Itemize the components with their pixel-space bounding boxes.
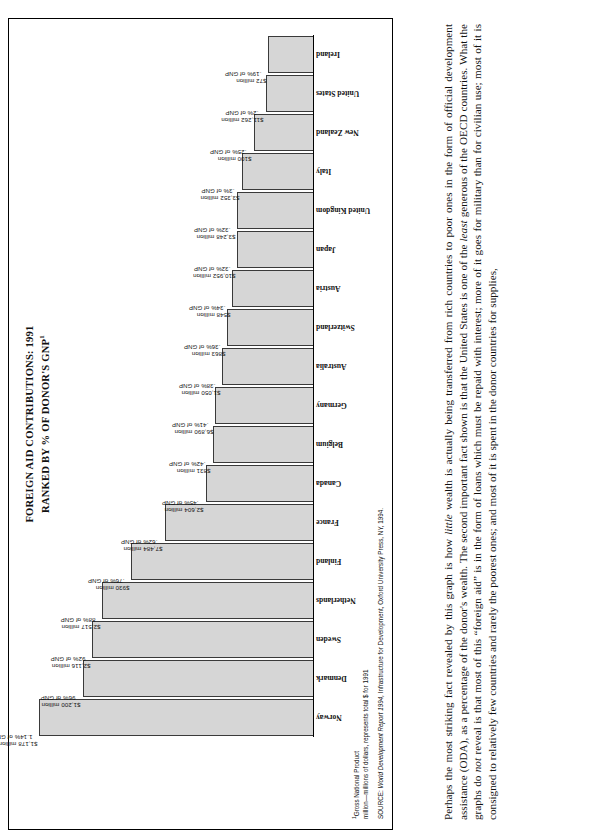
page-canvas: FOREIGN AID CONTRIBUTIONS: 1991 RANKED B…	[0, 0, 590, 838]
bar-chart-plot: $1,178 million1.14% of GNP$1,200 million…	[25, 35, 314, 737]
category-label: New Zealand	[316, 128, 359, 137]
category-label-cell: United States	[314, 74, 384, 113]
bar-amount-label: $3,248 million	[193, 234, 235, 241]
bar-percent-label: .41% of GNP	[172, 422, 214, 429]
bar-percent-label: 1.14% of GNP	[0, 734, 37, 741]
bar: $863 million.36% of GNP	[227, 309, 314, 346]
figure-source-line: SOURCE: World Development Report 1994, I…	[377, 489, 386, 819]
body-emphasis-1: little	[442, 514, 454, 535]
bar: $11,262 million.2% of GNP	[266, 75, 314, 112]
category-label: Australia	[316, 362, 346, 371]
category-label: United Kingdom	[316, 206, 370, 215]
category-label: Japan	[316, 245, 336, 254]
source-rest: Infrastructure for Development, Oxford U…	[377, 508, 384, 695]
bar-group: $10,952 million.32% of GNP	[25, 230, 314, 269]
bar: $2,604 million.45% of GNP	[206, 465, 314, 502]
bar-group: $930 million.76% of GNP	[25, 542, 314, 581]
bar-group: $863 million.36% of GNP	[25, 308, 314, 347]
source-title: World Development Report 1994,	[377, 695, 384, 788]
bar-group: $548 million.34% of GNP	[25, 269, 314, 308]
bar-percent-label: .76% of GNP	[87, 578, 129, 585]
category-label-cell: United Kingdom	[314, 191, 384, 230]
bar-amount-label: $7,484 million	[121, 546, 163, 553]
figure-border-box: FOREIGN AID CONTRIBUTIONS: 1991 RANKED B…	[8, 18, 393, 830]
bar-amount-label: $2,517 million	[60, 624, 100, 631]
category-label: Austria	[316, 284, 340, 293]
bar-value-label: $548 million.34% of GNP	[188, 305, 230, 319]
bar-percent-label: .62% of GNP	[121, 539, 163, 546]
bar-value-label: $11,262 million.2% of GNP	[222, 110, 264, 124]
bar-value-label: $2,604 million.45% of GNP	[162, 500, 204, 514]
bar-percent-label: .36% of GNP	[184, 344, 226, 351]
category-label: Norway	[316, 713, 342, 722]
bar-group: $11,262 million.2% of GNP	[25, 74, 314, 113]
body-text-rotation-wrapper: Perhaps the most striking fact revealed …	[430, 20, 580, 820]
category-label-cell: Italy	[314, 152, 384, 191]
bar: $2,116 million92% of GNP	[92, 621, 314, 658]
bar: $72 million.19% of GNP	[268, 36, 314, 73]
bar: $1,178 million1.14% of GNP	[39, 699, 314, 736]
figure-rotation-wrapper: FOREIGN AID CONTRIBUTIONS: 1991 RANKED B…	[8, 18, 393, 830]
bar-amount-label: $2,604 million	[162, 507, 204, 514]
bar-amount-label: $1,178 million	[0, 741, 37, 748]
bar: $1,050 million.38% of GNP	[222, 348, 314, 385]
bar-amount-label: $1,200 million	[41, 702, 81, 709]
bar: $10,952 million.32% of GNP	[237, 231, 314, 268]
bar-group: $6,890 million.41% of GNP	[25, 386, 314, 425]
bar-group: $3,248 million.32% of GNP	[25, 191, 314, 230]
bar-value-label: $1,178 million1.14% of GNP	[0, 734, 37, 748]
bar-amount-label: $548 million	[188, 312, 230, 319]
bar-group: $3,352 million.3% of GNP	[25, 152, 314, 191]
bar-value-label: $930 million.76% of GNP	[87, 578, 129, 592]
category-label: Canada	[316, 479, 341, 488]
bar-amount-label: $72 million	[225, 78, 267, 85]
bar-amount-label: $10,952 million	[192, 273, 235, 280]
category-label-cell: Switzerland	[314, 308, 384, 347]
footnote-text-1: Gross National Product	[353, 751, 360, 816]
body-part-1: Perhaps the most striking fact revealed …	[442, 535, 454, 820]
bar-group: $72 million.19% of GNP	[25, 35, 314, 74]
category-label-cell: Japan	[314, 230, 384, 269]
category-label-cell: Ireland	[314, 35, 384, 74]
bar-amount-label: $6,890 million	[172, 429, 214, 436]
category-label: Switzerland	[316, 323, 355, 332]
category-label-cell: Australia	[314, 347, 384, 386]
bar-percent-label: .34% of GNP	[188, 305, 230, 312]
bar-percent-label: 92% of GNP	[51, 656, 91, 663]
bar-value-label: $6,890 million.41% of GNP	[172, 422, 214, 436]
body-emphasis-2: least	[457, 220, 469, 241]
bar-percent-label: .32% of GNP	[193, 227, 235, 234]
category-label-cell: Belgium	[314, 425, 384, 464]
footnote-line-1: 1Gross National Product	[350, 489, 362, 819]
bar-value-label: $2,116 million92% of GNP	[51, 656, 91, 670]
bar: $3,352 million.3% of GNP	[242, 153, 314, 190]
bar-value-label: $831 million.42% of GNP	[169, 461, 211, 475]
category-label: Denmark	[316, 674, 347, 683]
bar-percent-label: 88% of GNP	[60, 617, 100, 624]
category-label: Ireland	[316, 50, 340, 59]
category-label: Germany	[316, 401, 347, 410]
footnote-text-2: million—millions of dollars, represents …	[362, 670, 369, 819]
bar-value-label: $3,248 million.32% of GNP	[193, 227, 235, 241]
bar-value-label: $10,952 million.32% of GNP	[192, 266, 235, 280]
bar-amount-label: $863 million	[184, 351, 226, 358]
category-label: Italy	[316, 167, 331, 176]
bar: $1,200 million96% of GNP	[83, 660, 314, 697]
bar: $3,248 million.32% of GNP	[237, 192, 314, 229]
category-label: France	[316, 518, 339, 527]
bar: $548 million.34% of GNP	[232, 270, 314, 307]
category-label: Sweden	[316, 635, 341, 644]
figure-footnotes: 1Gross National Product million—millions…	[350, 489, 386, 819]
bar-percent-label: 96% of GNP	[41, 695, 81, 702]
bar-group: $100 million.25% of GNP	[25, 113, 314, 152]
bar-percent-label: .19% of GNP	[225, 71, 267, 78]
bar-value-label: $3,352 million.3% of GNP	[201, 188, 240, 202]
bar-amount-label: $3,352 million	[201, 195, 240, 202]
bar: $2,517 million88% of GNP	[102, 582, 314, 619]
category-label-cell: Austria	[314, 269, 384, 308]
bar-value-label: $7,484 million.62% of GNP	[121, 539, 163, 553]
bar-percent-label: .45% of GNP	[162, 500, 204, 507]
bar-percent-label: .32% of GNP	[192, 266, 235, 273]
bar-percent-label: .2% of GNP	[222, 110, 264, 117]
bar-value-label: $1,050 million.38% of GNP	[179, 383, 221, 397]
